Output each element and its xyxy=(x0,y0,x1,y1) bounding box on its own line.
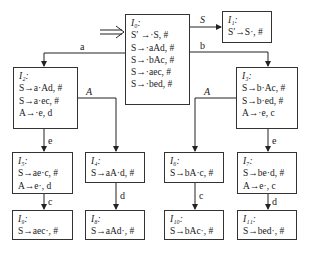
state-title: I₆: xyxy=(170,155,223,167)
state-title: I₈: xyxy=(91,213,144,225)
edge-label-i3-i6: A xyxy=(204,87,210,97)
state-i6: I₆: S→bA·c, # xyxy=(164,152,224,183)
edge-label-i3-i7: e xyxy=(272,136,276,146)
state-title: I₂: xyxy=(19,70,77,82)
state-item: A→·e, c xyxy=(242,107,297,119)
state-title: I₇: xyxy=(243,155,296,167)
state-title: I₃: xyxy=(242,70,297,82)
state-i8: I₈: S→aAd·, # xyxy=(85,210,145,240)
state-item: S→bA·c, # xyxy=(170,167,223,179)
state-title: I₄: xyxy=(91,155,144,167)
state-i1: I₁: S′→S·, # xyxy=(222,11,272,43)
state-item: A→e·, d xyxy=(18,180,72,192)
state-item: S→a·ec, # xyxy=(19,95,77,107)
state-item: S→·aAd, # xyxy=(131,42,189,54)
edge-label-i5-i9: c xyxy=(48,197,52,207)
state-i5: I₅: S→ae·c, # A→e·, d xyxy=(12,152,73,194)
state-i11: I₁₁: S→bed·, # xyxy=(237,210,297,240)
state-title: I₁: xyxy=(228,14,271,26)
edge-label-i2-i5: e xyxy=(48,136,52,146)
state-item: S→bAc·, # xyxy=(170,225,223,237)
edge-label-i6-i10: c xyxy=(199,191,203,201)
state-i7: I₇: S→be·d, # A→e·, c xyxy=(237,152,297,194)
state-item: S′→S·, # xyxy=(228,26,271,38)
edge-label-i0-i2: a xyxy=(80,42,84,52)
state-i3: I₃: S→b·Ac, # S→b·ed, # A→·e, c xyxy=(236,67,298,129)
state-item: S→·bAc, # xyxy=(131,54,189,66)
edge-label-i7-i11: d xyxy=(272,197,277,207)
edge-label-i0-i3: b xyxy=(200,41,205,51)
state-title: I₉: xyxy=(18,213,72,225)
state-item: S→aAd·, # xyxy=(91,225,144,237)
state-item: S→ae·c, # xyxy=(18,167,72,179)
edge-label-i2-i4: A xyxy=(86,87,92,97)
state-i4: I₄: S→aA·d, # xyxy=(85,152,145,183)
edge-label-i0-i1: S xyxy=(200,15,205,25)
state-item: S→b·ed, # xyxy=(242,95,297,107)
state-item: S→·bed, # xyxy=(131,78,189,90)
state-item: S→b·Ac, # xyxy=(242,82,297,94)
state-title: I₀: xyxy=(131,17,189,29)
state-item: S′ →·S, # xyxy=(131,29,189,41)
edge-label-i4-i8: d xyxy=(120,191,125,201)
state-item: S→aec·, # xyxy=(18,225,72,237)
state-item: S→a·Ad, # xyxy=(19,82,77,94)
state-title: I₅: xyxy=(18,155,72,167)
state-i9: I₉: S→aec·, # xyxy=(12,210,73,240)
state-item: A→·e, d xyxy=(19,107,77,119)
state-item: S→bed·, # xyxy=(243,225,296,237)
state-title: I₁₀: xyxy=(170,213,223,225)
state-i10: I₁₀: S→bAc·, # xyxy=(164,210,224,240)
start-arrow-icon xyxy=(100,26,124,38)
state-item: S→·aec, # xyxy=(131,66,189,78)
state-i0: I₀: S′ →·S, # S→·aAd, # S→·bAc, # S→·aec… xyxy=(125,14,190,105)
state-item: S→aA·d, # xyxy=(91,167,144,179)
state-item: A→e·, c xyxy=(243,180,296,192)
state-title: I₁₁: xyxy=(243,213,296,225)
state-i2: I₂: S→a·Ad, # S→a·ec, # A→·e, d xyxy=(13,67,78,129)
state-item: S→be·d, # xyxy=(243,167,296,179)
